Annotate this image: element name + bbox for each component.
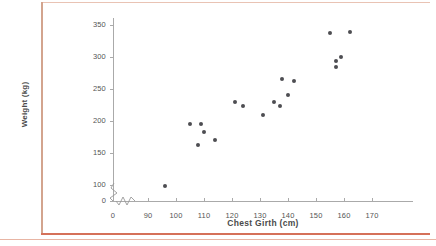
data-point [286, 93, 290, 97]
data-point [278, 104, 282, 108]
data-point [261, 113, 265, 117]
data-point [163, 184, 167, 188]
data-point [339, 55, 343, 59]
data-point [328, 31, 332, 35]
scatter-plot: 350 300 250 200 150 100 0 [0, 0, 436, 246]
plot-area [0, 0, 436, 246]
data-point [213, 138, 217, 142]
data-point [233, 100, 237, 104]
data-point [188, 122, 192, 126]
chart-page: 350 300 250 200 150 100 0 [0, 0, 436, 246]
data-point [280, 77, 284, 81]
data-point [292, 79, 296, 83]
data-point [272, 100, 276, 104]
data-point [199, 122, 203, 126]
data-point [334, 65, 338, 69]
data-point [196, 143, 200, 147]
data-point [241, 104, 245, 108]
data-point [334, 59, 338, 63]
data-point [202, 130, 206, 134]
data-point [348, 30, 352, 34]
